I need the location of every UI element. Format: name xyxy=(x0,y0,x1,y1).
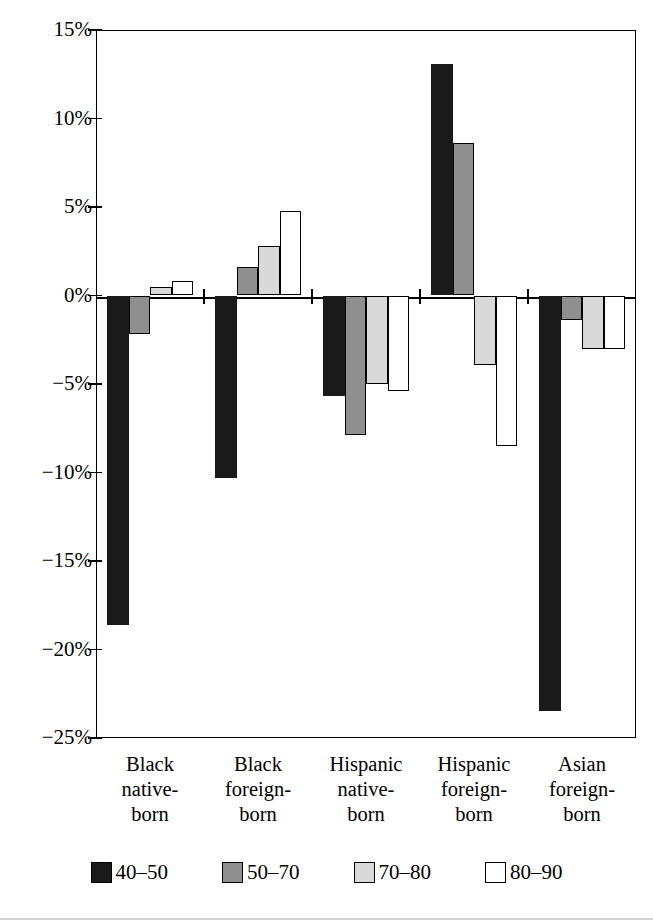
bar xyxy=(474,296,496,365)
x-axis-group-tick xyxy=(527,289,529,304)
legend-label: 80–90 xyxy=(510,862,563,883)
bar xyxy=(150,287,172,296)
category-label: Black native- born xyxy=(96,752,204,827)
bar xyxy=(496,296,518,446)
chart-legend: 40–5050–7070–8080–90 xyxy=(0,862,653,883)
bar xyxy=(280,211,302,296)
category-label: Black foreign- born xyxy=(204,752,312,827)
light-gray-swatch xyxy=(354,862,375,883)
page-edge-rule xyxy=(0,918,653,920)
legend-item[interactable]: 40–50 xyxy=(91,862,169,883)
black-swatch xyxy=(91,862,112,883)
bar xyxy=(345,296,367,436)
y-axis-label: −20% xyxy=(42,639,92,660)
category-label: Asian foreign- born xyxy=(528,752,636,827)
legend-item[interactable]: 70–80 xyxy=(354,862,432,883)
y-axis-label: 10% xyxy=(54,108,93,129)
bar xyxy=(215,296,237,478)
bar xyxy=(582,296,604,349)
legend-item[interactable]: 80–90 xyxy=(485,862,563,883)
y-axis-label: 15% xyxy=(54,19,93,40)
y-axis-label: −15% xyxy=(42,550,92,571)
legend-label: 50–70 xyxy=(247,862,300,883)
y-axis-label: 0% xyxy=(64,285,92,306)
y-axis-label: −25% xyxy=(42,727,92,748)
bar xyxy=(172,281,194,295)
x-axis-group-tick xyxy=(203,289,205,304)
white-swatch xyxy=(485,862,506,883)
x-axis-group-tick xyxy=(311,289,313,304)
bar-chart: 15%10%5%0%−5%−10%−15%−20%−25% Black nati… xyxy=(0,0,653,922)
category-label: Hispanic foreign- born xyxy=(420,752,528,827)
y-axis-label: −5% xyxy=(52,373,92,394)
bar xyxy=(323,296,345,397)
y-axis-label: 5% xyxy=(64,196,92,217)
y-axis-label: −10% xyxy=(42,462,92,483)
dark-gray-swatch xyxy=(222,862,243,883)
legend-item[interactable]: 50–70 xyxy=(222,862,300,883)
bar xyxy=(453,143,475,295)
bar xyxy=(129,296,151,335)
bar xyxy=(366,296,388,385)
legend-label: 70–80 xyxy=(379,862,432,883)
category-label: Hispanic native- born xyxy=(312,752,420,827)
bar xyxy=(388,296,410,392)
bar xyxy=(539,296,561,712)
x-axis-group-tick xyxy=(419,289,421,304)
bar xyxy=(561,296,583,321)
legend-label: 40–50 xyxy=(116,862,169,883)
bar xyxy=(258,246,280,296)
bar xyxy=(107,296,129,625)
bar xyxy=(604,296,626,349)
bar xyxy=(237,267,259,295)
bar xyxy=(431,64,453,296)
